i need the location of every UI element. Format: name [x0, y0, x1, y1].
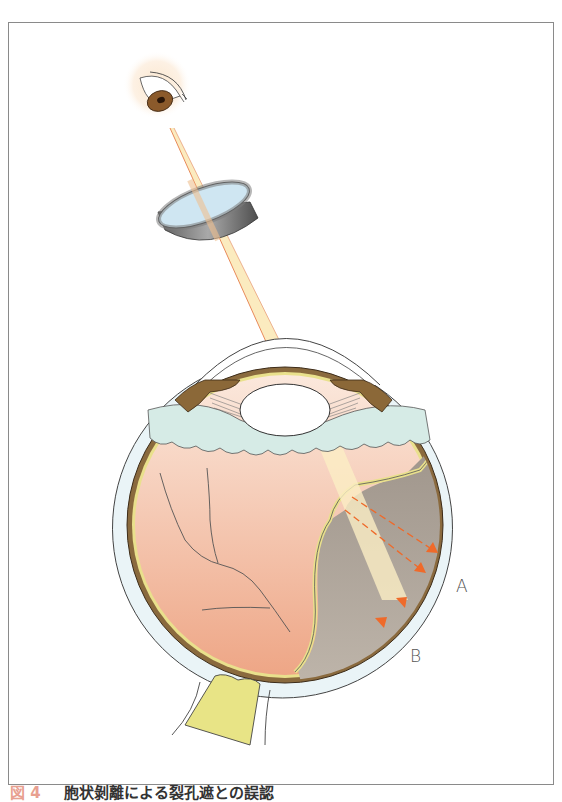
caption-number: 図 4: [10, 784, 41, 802]
label-a: A: [456, 576, 468, 596]
contact-lens: [153, 173, 258, 240]
observer-eye: [123, 51, 191, 119]
eyeball-cross-section: [113, 339, 471, 746]
figure-caption: 図 4 胞状剝離による裂孔遮との誤認: [10, 781, 274, 802]
caption-text: 胞状剝離による裂孔遮との誤認: [64, 784, 274, 802]
label-b: B: [410, 646, 421, 666]
